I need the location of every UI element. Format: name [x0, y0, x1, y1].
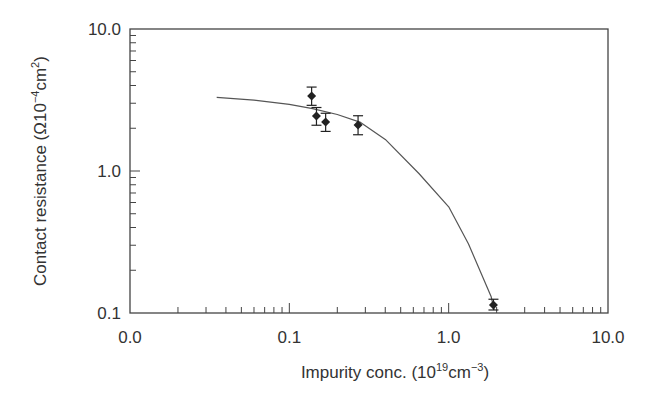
diamond-marker — [354, 120, 363, 129]
data-point — [353, 116, 363, 135]
diamond-marker — [321, 118, 330, 127]
fit-curve — [217, 97, 495, 310]
x-axis-title: Impurity conc. (1019cm−3) — [301, 361, 489, 382]
diamond-marker — [307, 92, 316, 101]
chart: 0.00.11.010.0 0.11.010.0 Impurity conc. … — [0, 0, 652, 409]
x-axis-ticks — [178, 303, 601, 313]
y-tick-label: 10.0 — [88, 20, 121, 39]
plot-frame — [130, 29, 608, 313]
data-points — [307, 87, 499, 310]
plot-border — [130, 29, 608, 313]
y-tick-label: 0.1 — [97, 304, 121, 323]
x-axis-tick-labels: 0.00.11.010.0 — [118, 328, 624, 347]
diamond-marker — [312, 111, 321, 120]
y-axis-ticks — [130, 35, 140, 270]
data-point — [307, 87, 317, 105]
data-point — [321, 113, 331, 131]
y-tick-label: 1.0 — [97, 162, 121, 181]
y-axis-tick-labels: 0.11.010.0 — [88, 20, 121, 323]
x-tick-label: 0.1 — [278, 328, 302, 347]
fit-line — [217, 97, 495, 310]
y-axis-title: Contact resistance (Ω10−4cm2) — [29, 56, 50, 286]
x-tick-label: 10.0 — [591, 328, 624, 347]
x-tick-label: 0.0 — [118, 328, 142, 347]
x-tick-label: 1.0 — [437, 328, 461, 347]
